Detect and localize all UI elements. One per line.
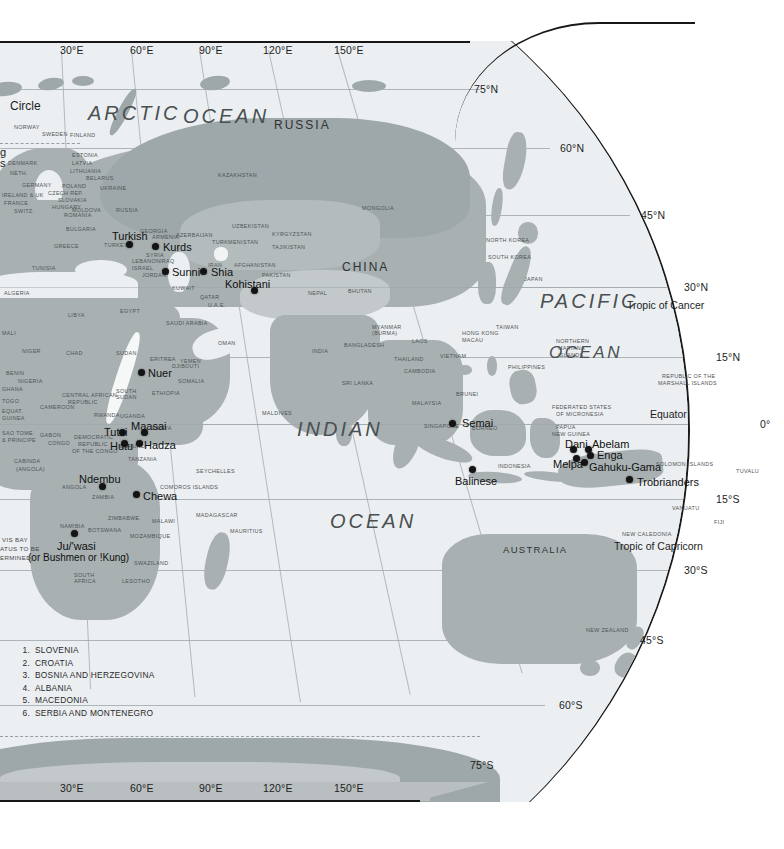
country-label: MOZAMBIQUE [130, 533, 170, 539]
latitude-label: 45°N [641, 209, 665, 221]
country-label: MALI [2, 330, 16, 336]
country-label: BANGLADESH [344, 342, 384, 348]
country-label: RUSSIA [116, 207, 138, 213]
country-label: IRELAND & UK [2, 192, 44, 198]
country-label: LESOTHO [122, 578, 150, 584]
country-label: NEW ZEALAND [586, 627, 629, 633]
culture-group-label: Sunni [172, 266, 200, 278]
culture-group-label: Trobrianders [637, 476, 699, 488]
country-label: RWANDA [94, 412, 120, 418]
country-label: UZBEKISTAN [232, 223, 269, 229]
culture-group-label: Kurds [163, 241, 192, 253]
culture-marker-dot [581, 459, 588, 466]
country-label: SUDAN [116, 350, 137, 356]
culture-group-label: Nuer [148, 367, 172, 379]
legend-number: 4. [18, 682, 30, 695]
country-label: NETH. [10, 170, 28, 176]
longitude-label: 150°E [334, 44, 364, 56]
culture-marker-dot [200, 268, 207, 275]
legend-label: BOSNIA AND HERZEGOVINA [35, 670, 155, 680]
legend-number: 2. [18, 657, 30, 670]
land-new-siberian-islands [352, 80, 386, 92]
country-label: ROMANIA [64, 212, 92, 218]
country-label: MARSHALL ISLANDS [658, 380, 717, 386]
legend-row: 4.ALBANIA [18, 682, 155, 695]
ocean-label-arctic-ocean: OCEAN [183, 105, 269, 128]
country-label: CAMBODIA [404, 368, 436, 374]
longitude-labels-bottom: 30°E60°E90°E120°E150°E [0, 782, 784, 800]
culture-group-label: Melpa [553, 458, 583, 470]
country-label: & PRINCIPE [2, 437, 36, 443]
country-label: MAURITIUS [230, 528, 263, 534]
region-label-australia: AUSTRALIA [503, 544, 568, 555]
legend-label: SLOVENIA [35, 645, 79, 655]
clipped-edge-label: Circle [10, 99, 41, 113]
country-label: NEW GUINEA [552, 431, 590, 437]
culture-group-label: Shia [211, 266, 233, 278]
ocean-label-indian: INDIAN [297, 418, 383, 441]
country-label: UGANDA [120, 413, 145, 419]
legend-row: 2.CROATIA [18, 657, 155, 670]
latitude-label: 0° [760, 418, 770, 430]
legend-label: SERBIA AND MONTENEGRO [35, 708, 153, 718]
parallel-arctic-circle [0, 143, 80, 144]
culture-group-label: Hadza [144, 439, 176, 451]
legend-row: 5.MACEDONIA [18, 694, 155, 707]
country-label: SAO TOME [2, 430, 33, 436]
longitude-label: 60°E [130, 44, 154, 56]
country-label: LAOS [412, 338, 428, 344]
culture-marker-dot [152, 243, 159, 250]
country-label: ISLANDS [558, 352, 584, 358]
country-label: NORTH KOREA [486, 237, 529, 243]
culture-marker-dot [449, 420, 456, 427]
country-label: LITHUANIA [70, 168, 101, 174]
country-label: ISRAEL [132, 265, 153, 271]
country-label: SEYCHELLES [196, 468, 235, 474]
country-label: DENMARK [8, 160, 37, 166]
country-label: TOGO [2, 398, 19, 404]
longitude-label: 120°E [263, 782, 293, 794]
country-label: GUINEA [2, 415, 25, 421]
country-label: FEDERATED STATES [552, 404, 612, 410]
country-label: AZERBAIJAN [176, 232, 213, 238]
land-hainan [458, 365, 472, 375]
country-label: NAMIBIA [60, 523, 85, 529]
special-line-label: Tropic of Capricorn [614, 540, 703, 552]
country-label: TUNISIA [32, 265, 56, 271]
country-label: INDIA [312, 348, 328, 354]
country-label: OMAN [218, 340, 236, 346]
culture-marker-dot [469, 466, 476, 473]
longitude-label: 30°E [60, 44, 84, 56]
culture-group-label: (or Bushmen or !Kung) [28, 552, 129, 563]
country-label: SOUTH KOREA [488, 254, 531, 260]
country-label: FIJI [714, 519, 724, 525]
culture-group-label: Kohistani [225, 278, 270, 290]
country-label: VANUATU [672, 505, 699, 511]
culture-group-label: Ju/'wasi [57, 540, 96, 552]
country-label: MALAWI [152, 518, 175, 524]
country-label: HONG KONG [462, 330, 499, 336]
region-label-russia: RUSSIA [274, 118, 331, 132]
longitude-label: 60°E [130, 782, 154, 794]
country-label: CENTRAL AFRICAN [62, 392, 117, 398]
country-label: SWAZILAND [134, 560, 168, 566]
latitude-label: 60°S [559, 699, 583, 711]
country-label: MALAYSIA [412, 400, 441, 406]
country-label: INDONESIA [498, 463, 531, 469]
country-label: NORWAY [14, 124, 40, 130]
country-label: ETHIOPIA [152, 390, 180, 396]
country-label: TAIWAN [496, 324, 518, 330]
land-taiwan [487, 356, 497, 376]
latitude-label: 15°S [716, 493, 740, 505]
culture-group-label: Hutu [110, 440, 133, 452]
country-label: (Angola) [16, 466, 45, 472]
country-label: MONGOLIA [362, 205, 394, 211]
country-label: MALDIVES [262, 410, 292, 416]
country-label: (BURMA) [372, 330, 398, 336]
country-label: ARMENIA [152, 234, 179, 240]
country-label: DJIBOUTI [172, 363, 199, 369]
country-label: CABINDA [14, 458, 40, 464]
clipped-note-line: atus to be [0, 545, 40, 552]
legend-row: 1.SLOVENIA [18, 644, 155, 657]
legend-number: 6. [18, 707, 30, 720]
